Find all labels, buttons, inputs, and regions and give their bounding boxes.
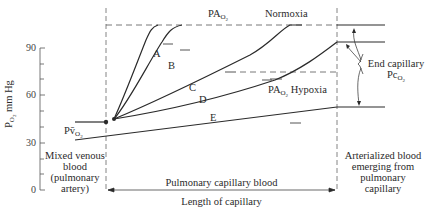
mixed-venous-label: Mixed venous blood (pulmonary artery) xyxy=(44,150,106,194)
curve-c-label: C xyxy=(189,82,196,93)
pvo2-label: Pv̄O2 xyxy=(64,125,83,142)
pulmonary-capillary-blood-label: Pulmonary capillary blood xyxy=(106,177,337,188)
curve-d-label: D xyxy=(199,94,207,105)
pvo2-dot xyxy=(104,120,108,124)
y-tick-0: 0 xyxy=(18,184,36,195)
brace xyxy=(358,54,363,74)
y-tick-60: 60 xyxy=(18,89,36,100)
y-tick-90: 90 xyxy=(18,42,36,53)
pao2-hypoxia-label: PAO2 Hypoxia xyxy=(268,84,327,101)
curve-e xyxy=(75,107,337,140)
end-capillary-arrows xyxy=(347,30,361,104)
length-of-capillary-label: Length of capillary xyxy=(106,196,337,207)
normoxia-label: Normoxia xyxy=(265,8,308,19)
end-capillary-label: End capillary PcO2 xyxy=(365,58,427,86)
curve-d xyxy=(114,42,337,119)
curve-a xyxy=(114,25,158,119)
curve-e-label: E xyxy=(210,112,216,123)
y-tick-30: 30 xyxy=(18,137,36,148)
curve-b xyxy=(114,25,182,119)
curves xyxy=(75,25,385,140)
y-axis-label: PO2 mm Hg xyxy=(3,80,17,128)
arterialized-label: Arterialized blood emerging from pulmona… xyxy=(340,150,426,194)
curve-a-label: A xyxy=(153,48,161,59)
pao2-top-label: PAO2 xyxy=(208,8,228,25)
length-arrow xyxy=(108,188,335,192)
curve-b-label: B xyxy=(168,60,175,71)
